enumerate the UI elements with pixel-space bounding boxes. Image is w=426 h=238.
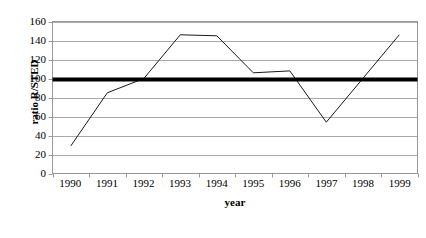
x-tick-label: 1994 xyxy=(198,176,235,196)
gridlines xyxy=(53,23,418,156)
plot-border xyxy=(53,22,418,174)
data-series-line xyxy=(71,35,400,146)
x-axis-title: year xyxy=(52,196,418,208)
x-tick-label: 1991 xyxy=(89,176,126,196)
x-tick-label: 1999 xyxy=(381,176,418,196)
y-tick-marks xyxy=(49,23,53,175)
x-tick-label: 1992 xyxy=(125,176,162,196)
chart-figure: ratio R/STED 160 140 120 100 80 60 40 20… xyxy=(0,0,426,238)
x-tick-label: 1990 xyxy=(52,176,89,196)
x-tick-label: 1993 xyxy=(162,176,199,196)
x-tick-label: 1998 xyxy=(345,176,382,196)
x-axis-tick-labels: 1990 1991 1992 1993 1994 1995 1996 1997 … xyxy=(52,176,418,196)
x-tick-label: 1995 xyxy=(235,176,272,196)
x-tick-label: 1997 xyxy=(308,176,345,196)
x-tick-label: 1996 xyxy=(272,176,309,196)
